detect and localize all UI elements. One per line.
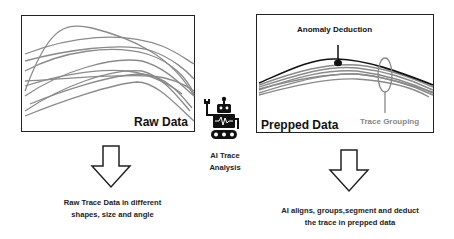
anomaly-marker [334, 60, 342, 66]
prepped-data-panel: Anomaly Deduction Trace Grouping Prepped… [256, 14, 434, 133]
raw-data-label: Raw Data [134, 115, 188, 129]
right-down-arrow-icon [328, 149, 370, 193]
trace-grouping-label: Trace Grouping [360, 117, 419, 126]
ai-trace-analysis-label: AI Trace Analysis [200, 150, 250, 174]
prepped-data-caption: AI aligns, groups,segment and deduct the… [255, 205, 445, 229]
robot-icon [202, 96, 246, 142]
raw-data-caption: Raw Trace Data in different shapes, size… [40, 197, 185, 221]
ai-robot [202, 96, 246, 142]
left-down-arrow-icon [90, 145, 132, 189]
prepped-data-label: Prepped Data [261, 118, 338, 132]
anomaly-deduction-label: Anomaly Deduction [297, 25, 372, 34]
raw-data-panel: Raw Data [21, 15, 195, 132]
